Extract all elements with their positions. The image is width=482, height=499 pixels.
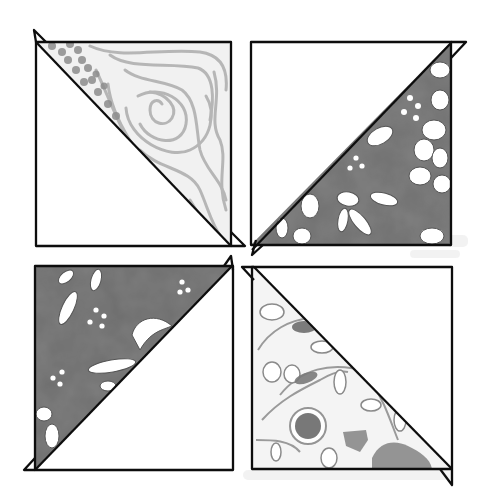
block-top-left <box>34 30 245 246</box>
block-bottom-left <box>24 256 233 470</box>
block-top-right <box>251 42 466 255</box>
quilt-block-illustration <box>0 0 482 499</box>
block-bottom-right <box>242 267 452 485</box>
